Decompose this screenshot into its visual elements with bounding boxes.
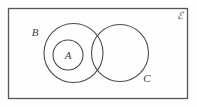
- venn-diagram-canvas: B A C ℰ: [0, 0, 197, 107]
- set-label-c: C: [143, 72, 151, 84]
- set-label-a: A: [64, 49, 72, 61]
- set-circle-c: [92, 25, 149, 82]
- venn-diagram-container: B A C ℰ: [0, 0, 197, 107]
- set-label-b: B: [32, 26, 39, 38]
- universal-set-rectangle: [9, 9, 188, 99]
- universal-set-symbol: ℰ: [177, 10, 184, 21]
